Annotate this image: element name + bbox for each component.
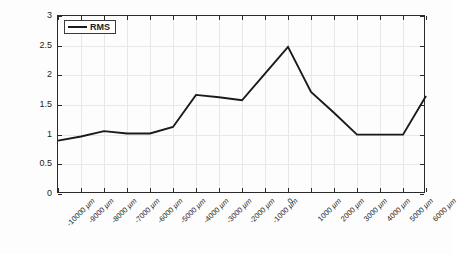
- x-axis-tick-label: 5000 µm: [409, 197, 435, 223]
- y-axis-labels: 00.511.522.53: [20, 15, 52, 193]
- y-axis-tick-label: 0: [47, 189, 52, 198]
- x-axis-tick-label: 4000 µm: [386, 197, 412, 223]
- series-line-rms: [58, 47, 426, 141]
- series-container: [58, 16, 426, 194]
- x-axis-tick-label: 2000 µm: [340, 197, 366, 223]
- x-axis-tick-top: [426, 16, 427, 20]
- x-axis-tick-label: 6000 µm: [432, 197, 458, 223]
- legend-label-rms: RMS: [90, 23, 110, 32]
- plot-area: RMS: [57, 15, 425, 193]
- x-axis-tick: [426, 188, 427, 192]
- y-axis-tick-label: 2.5: [39, 40, 52, 49]
- y-axis-tick-label: 3: [47, 11, 52, 20]
- x-axis-tick-label: 3000 µm: [363, 197, 389, 223]
- legend: RMS: [64, 20, 116, 34]
- y-axis-tick-label: 1: [47, 129, 52, 138]
- x-axis-labels: -10000 µm-9000 µm-8000 µm-7000 µm-6000 µ…: [57, 193, 425, 254]
- y-axis-tick-label: 0.5: [39, 159, 52, 168]
- x-axis-tick-label: 1000 µm: [317, 197, 343, 223]
- y-axis-tick-label: 2: [47, 70, 52, 79]
- legend-swatch-rms: [68, 26, 87, 28]
- y-axis-tick-label: 1.5: [39, 100, 52, 109]
